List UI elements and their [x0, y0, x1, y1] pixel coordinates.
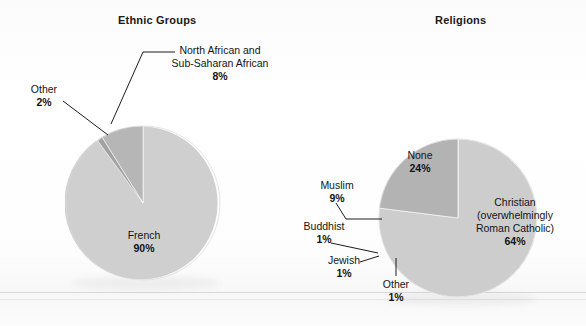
- callout-buddhist-pct: 1%: [293, 233, 355, 246]
- callout-jewish-name: Jewish: [317, 254, 371, 267]
- callout-christian-line1: Christian: [461, 196, 569, 209]
- callout-buddhist-name: Buddhist: [293, 220, 355, 233]
- callout-other-religion: Other 1%: [372, 278, 420, 304]
- callout-jewish-pct: 1%: [317, 267, 371, 280]
- callout-muslim: Muslim 9%: [310, 179, 364, 205]
- callout-none: None 24%: [392, 149, 448, 175]
- callout-french: French 90%: [108, 229, 180, 255]
- callout-french-pct: 90%: [108, 242, 180, 255]
- callout-french-name: French: [108, 229, 180, 242]
- figure-canvas: Ethnic Groups North African and Sub-Saha…: [0, 0, 586, 326]
- chart-title-religions: Religions: [435, 14, 486, 26]
- callout-jewish: Jewish 1%: [317, 254, 371, 280]
- callout-other-religion-pct: 1%: [372, 291, 420, 304]
- chart-title-ethnic-groups: Ethnic Groups: [118, 14, 196, 26]
- callout-other-ethnic-pct: 2%: [20, 96, 68, 109]
- callout-other-religion-name: Other: [372, 278, 420, 291]
- callout-north-african-line1: North African and: [160, 44, 280, 57]
- callout-muslim-pct: 9%: [310, 192, 364, 205]
- callout-buddhist: Buddhist 1%: [293, 220, 355, 246]
- callout-muslim-name: Muslim: [310, 179, 364, 192]
- callout-other-ethnic: Other 2%: [20, 83, 68, 109]
- callout-christian: Christian (overwhelmingly Roman Catholic…: [461, 196, 569, 248]
- pie-chart-ethnic-groups: [65, 125, 221, 285]
- callout-christian-pct: 64%: [461, 235, 569, 248]
- callout-none-pct: 24%: [392, 162, 448, 175]
- callout-christian-line2: (overwhelmingly: [461, 209, 569, 222]
- callout-north-african-sub-saharan: North African and Sub-Saharan African 8%: [160, 44, 280, 83]
- callout-north-african-pct: 8%: [160, 70, 280, 83]
- callout-north-african-line2: Sub-Saharan African: [160, 57, 280, 70]
- callout-none-name: None: [392, 149, 448, 162]
- callout-other-ethnic-name: Other: [20, 83, 68, 96]
- callout-christian-line3: Roman Catholic): [461, 222, 569, 235]
- leader-line-muslim: [336, 203, 382, 219]
